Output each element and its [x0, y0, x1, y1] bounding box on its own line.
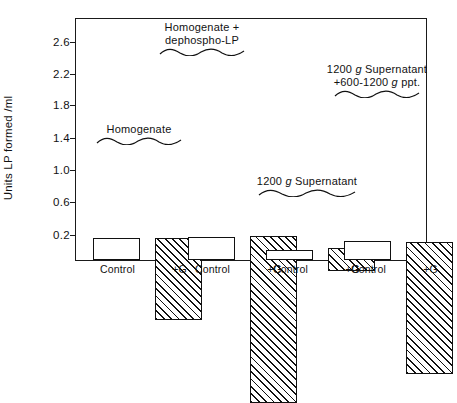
bar-hatch-dephospho-plus-g [250, 236, 298, 403]
group-label-ppt-line2-pre: +600-1200 [334, 76, 392, 88]
group-label-homogenate-dephospho-lp: Homogenate + dephospho-LP [134, 21, 270, 56]
y-tick-label-0-6: 0.6 [53, 196, 70, 208]
group-label-supernatant-line1-pre: 1200 [257, 175, 286, 187]
group-label-ppt-line1-pre: 1200 [327, 63, 356, 75]
brace-squiggle-icon [334, 90, 420, 98]
x-tick-label-8: +G [401, 263, 457, 275]
bar-homogenate-control: Control [93, 238, 140, 260]
group-label-homogenate-line1: Homogenate [107, 123, 172, 135]
x-tick-label-1: Control [88, 263, 147, 275]
bar-hatch-ppt-plus-g [406, 242, 454, 374]
group-label-dephospho-line2: dephospho-LP [165, 34, 239, 46]
x-tick-label-7: Control [339, 263, 398, 275]
y-tick-label-2-2: 2.2 [53, 68, 70, 80]
bar-dephospho-control: Control [188, 237, 235, 260]
group-label-supernatant-plus-ppt: 1200 g Supernatant +600-1200 g ppt. [304, 63, 450, 98]
bar-supernatant-control: Control [266, 250, 313, 260]
group-label-ppt-line1-post: Supernatant [362, 63, 427, 75]
brace-squiggle-icon [159, 48, 245, 56]
y-tick-label-1-8: 1.8 [53, 99, 70, 111]
brace-squiggle-icon [96, 137, 182, 145]
plot-area: Homogenate Control +G Homogenate + depho… [75, 18, 427, 261]
x-tick-label-5: Control [261, 263, 320, 275]
bar-ppt-plus-g: +G [406, 242, 453, 260]
bar-ppt-control: Control [344, 241, 391, 260]
y-axis-title: Units LP formed /ml [2, 96, 14, 201]
group-label-ppt-line2-post: ppt. [398, 76, 420, 88]
group-label-homogenate: Homogenate [80, 123, 198, 145]
y-tick-label-2-6: 2.6 [53, 36, 70, 48]
brace-squiggle-icon [258, 189, 356, 197]
y-tick-label-1-4: 1.4 [53, 132, 70, 144]
y-tick-label-1-0: 1.0 [53, 164, 70, 176]
x-tick-label-3: Control [183, 263, 242, 275]
y-tick-label-0-2: 0.2 [53, 229, 70, 241]
group-label-supernatant-line1-post: Supernatant [292, 175, 357, 187]
group-label-supernatant-1200g: 1200 g Supernatant [234, 175, 380, 197]
y-axis-tick-labels: 2.6 2.2 1.8 1.4 1.0 0.6 0.2 [22, 0, 70, 297]
group-label-dephospho-line1: Homogenate + [165, 21, 240, 33]
